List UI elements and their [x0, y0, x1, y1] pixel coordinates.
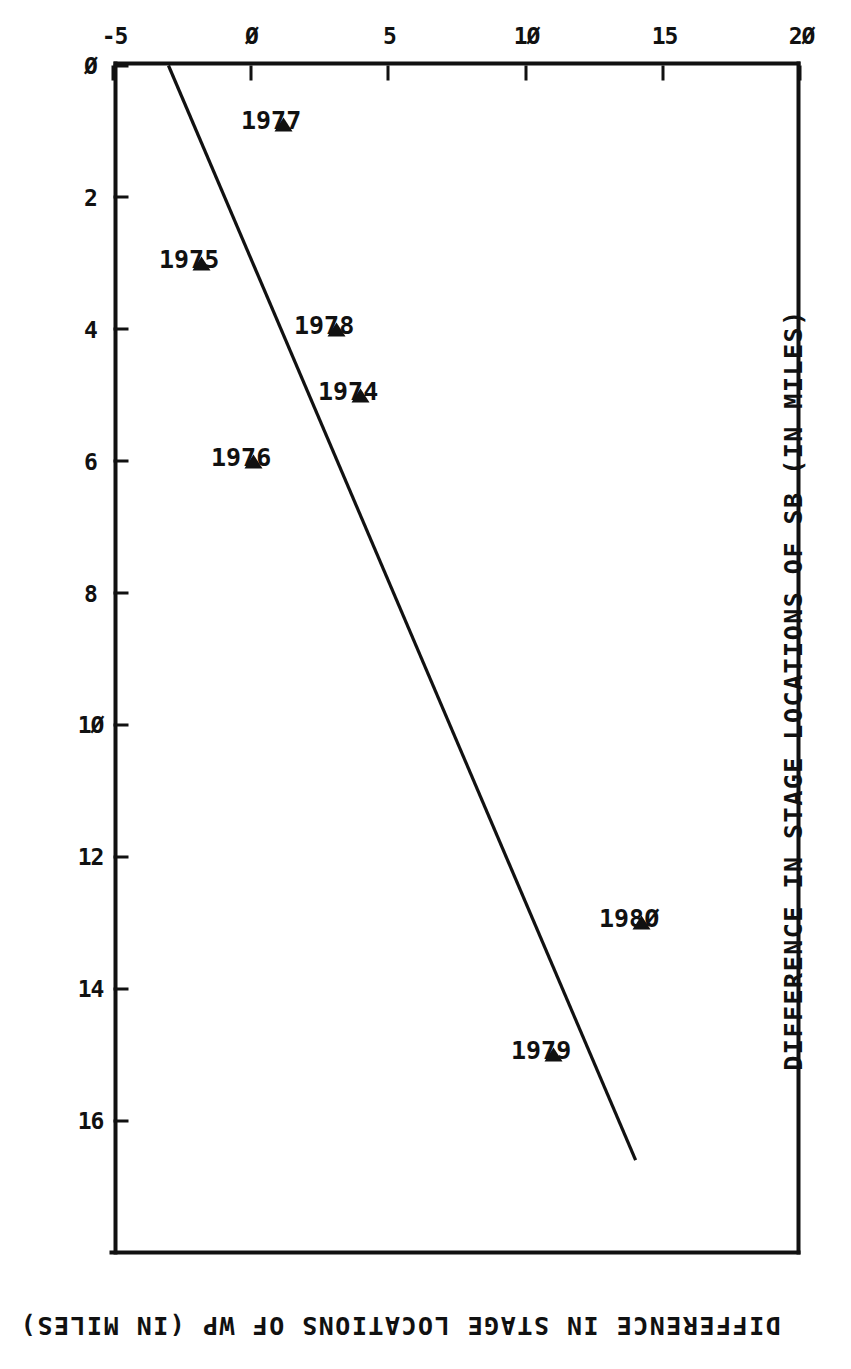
data-point-label: 1977 — [241, 106, 301, 135]
y-axis-title: DIFFERENCE IN STAGE LOCATIONS OF WP (IN … — [19, 1311, 780, 1340]
data-point-label: 1975 — [158, 244, 218, 273]
data-point-label: 1974 — [318, 376, 378, 405]
x-axis-title: DIFFERENCE IN STAGE LOCATIONS OF SB (IN … — [779, 309, 808, 1070]
data-point-label: 1978 — [293, 310, 353, 339]
data-point-label: 1976 — [211, 442, 271, 471]
data-point-label: 1979 — [510, 1036, 570, 1065]
rotated-plot-surface: Ø24681Ø121416 -5Ø51Ø152Ø 197719751978197… — [0, 0, 851, 1369]
data-point-label: 198Ø — [598, 904, 658, 933]
regression-line-layer — [0, 0, 851, 1369]
figure-canvas: Ø24681Ø121416 -5Ø51Ø152Ø 197719751978197… — [0, 0, 851, 1369]
